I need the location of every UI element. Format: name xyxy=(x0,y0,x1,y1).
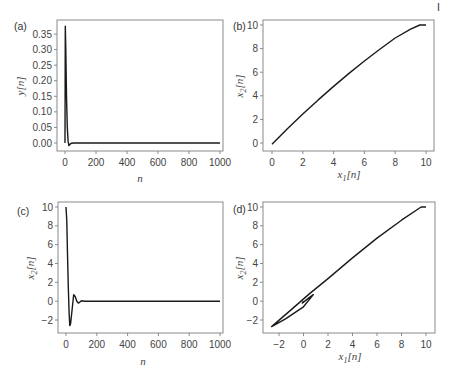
panel-b-y-ticks: 0246810 xyxy=(247,20,263,149)
y-tick-label: 0.15 xyxy=(33,91,53,102)
panel-a-curve xyxy=(65,26,220,145)
x-tick-label: 200 xyxy=(88,157,105,168)
y-tick-label: 0 xyxy=(47,296,53,307)
y-tick-label: 4 xyxy=(252,258,258,269)
panel-d-y-ticks: −20246810 xyxy=(247,202,263,326)
y-tick-label: 0.35 xyxy=(33,29,53,40)
panel-b-chart: (b) 0246810 0246810 x1[n] x2[n] xyxy=(233,20,434,184)
x-tick-label: 4 xyxy=(331,157,337,168)
x-tick-label: 0 xyxy=(269,157,275,168)
panel-a-x-ticks: 02004006008001000 xyxy=(62,151,231,168)
x-tick-label: 400 xyxy=(119,157,136,168)
y-tick-label: 6 xyxy=(252,67,258,78)
x-tick-label: 1000 xyxy=(209,157,232,168)
y-tick-label: 0.10 xyxy=(33,106,53,117)
x-tick-label: 8 xyxy=(399,339,405,350)
x-tick-label: 10 xyxy=(420,339,432,350)
panel-b-label: (b) xyxy=(233,20,246,32)
x-tick-label: −2 xyxy=(273,339,285,350)
y-tick-label: 6 xyxy=(47,239,53,250)
x-tick-label: 10 xyxy=(420,157,432,168)
panel-c-chart: (c) −20246810 02004006008001000 n x2[n] xyxy=(17,202,232,368)
panel-b-x-ticks: 0246810 xyxy=(269,151,432,168)
panel-a-chart: (a) 0.000.050.100.150.200.250.300.35 020… xyxy=(14,20,232,184)
y-tick-label: 10 xyxy=(247,20,259,31)
panel-b-x-label: x1[n] xyxy=(337,168,361,183)
x-tick-label: 2 xyxy=(300,157,306,168)
panel-b-frame xyxy=(263,20,434,151)
y-tick-label: 8 xyxy=(252,220,258,231)
y-tick-label: 0 xyxy=(252,138,258,149)
panel-c-frame xyxy=(58,202,223,333)
x-tick-label: 0 xyxy=(63,339,69,350)
panel-a-label: (a) xyxy=(14,20,27,32)
panel-a-y-label: y[n] xyxy=(14,77,26,97)
x-tick-label: 2 xyxy=(325,339,331,350)
x-tick-label: 8 xyxy=(392,157,398,168)
y-tick-label: 0.20 xyxy=(33,75,53,86)
y-tick-label: 2 xyxy=(252,114,258,125)
y-tick-label: 8 xyxy=(252,43,258,54)
panel-c-y-ticks: −20246810 xyxy=(42,202,58,326)
panel-d-x-ticks: −20246810 xyxy=(273,333,432,350)
x-tick-label: 4 xyxy=(350,339,356,350)
x-tick-label: 6 xyxy=(374,339,380,350)
y-tick-label: 0.30 xyxy=(33,44,53,55)
y-tick-label: 8 xyxy=(47,220,53,231)
y-tick-label: 6 xyxy=(252,239,258,250)
panel-d-x-label: x1[n] xyxy=(338,350,362,365)
figure-canvas: I (a) 0.000.050.100.150.200.250.300.35 0… xyxy=(0,0,450,378)
y-tick-label: 2 xyxy=(252,277,258,288)
y-tick-label: 0.00 xyxy=(33,138,53,149)
panel-d-y-label: x2[n] xyxy=(233,257,248,281)
panel-d-chart: (d) −20246810 −20246810 x1[n] x2[n] xyxy=(233,202,435,366)
x-tick-label: 6 xyxy=(362,157,368,168)
y-tick-label: 4 xyxy=(47,258,53,269)
y-tick-label: −2 xyxy=(42,315,54,326)
panel-d-frame xyxy=(263,202,435,333)
x-tick-label: 1000 xyxy=(209,339,232,350)
y-tick-label: 0 xyxy=(252,296,258,307)
panel-a-x-label: n xyxy=(137,172,143,184)
x-tick-label: 0 xyxy=(62,157,68,168)
panel-b-curve xyxy=(272,25,426,144)
x-tick-label: 800 xyxy=(181,339,198,350)
panel-c-x-label: n xyxy=(140,355,146,367)
panel-c-y-label: x2[n] xyxy=(24,257,39,281)
y-tick-label: 2 xyxy=(47,277,53,288)
x-tick-label: 0 xyxy=(301,339,307,350)
panel-a-y-ticks: 0.000.050.100.150.200.250.300.35 xyxy=(33,29,57,149)
y-tick-label: 0.25 xyxy=(33,60,53,71)
y-tick-label: 10 xyxy=(42,202,54,213)
panel-c-curve xyxy=(66,207,220,326)
panel-c-label: (c) xyxy=(17,205,29,217)
panel-d-curve xyxy=(272,207,426,327)
x-tick-label: 800 xyxy=(181,157,198,168)
y-tick-label: 0.05 xyxy=(33,122,53,133)
page-marker: I xyxy=(437,1,440,13)
x-tick-label: 600 xyxy=(150,339,167,350)
y-tick-label: 10 xyxy=(247,202,259,213)
panel-d-label: (d) xyxy=(233,203,246,215)
y-tick-label: 4 xyxy=(252,90,258,101)
x-tick-label: 200 xyxy=(88,339,105,350)
x-tick-label: 400 xyxy=(119,339,136,350)
y-tick-label: −2 xyxy=(247,315,259,326)
panel-b-y-label: x2[n] xyxy=(233,75,248,99)
panel-c-x-ticks: 02004006008001000 xyxy=(63,333,231,350)
x-tick-label: 600 xyxy=(150,157,167,168)
panel-a-frame xyxy=(57,20,223,151)
